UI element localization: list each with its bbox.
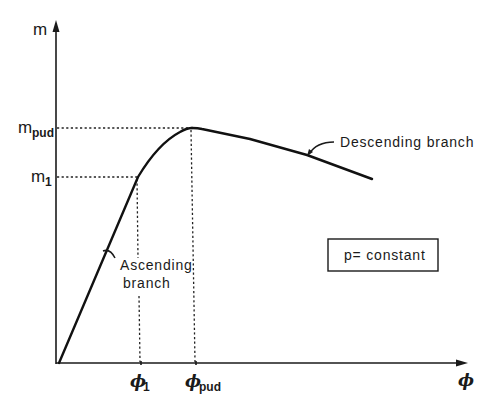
condition-box: p= constant [328, 239, 438, 271]
x-axis-label: ϕ [458, 370, 474, 390]
ascending-label-line2: branch [123, 275, 171, 291]
condition-box-text: p= constant [344, 247, 426, 263]
y-tick-mpud: m pud [18, 118, 54, 140]
y-tick-m1: m 1 [31, 167, 52, 189]
x-tick-phipud-label: ϕ pud [185, 371, 221, 394]
descending-label: Descending branch [340, 134, 474, 150]
x-tick-phi1-label: ϕ 1 [130, 371, 150, 394]
phipud-vertical-guide [191, 130, 195, 362]
y-tick-m1-main: m [31, 167, 45, 186]
y-axis-arrow-icon [53, 20, 60, 32]
guide-lines [57, 128, 195, 362]
moment-curvature-diagram: m ϕ m pud m 1 ϕ 1 ϕ pud Ascending branch… [0, 0, 489, 406]
y-axis-label: m [33, 20, 47, 39]
descending-callout-pointer [309, 142, 334, 154]
x-tick-phi1-sub: 1 [143, 380, 150, 394]
y-tick-m1-sub: 1 [45, 175, 52, 189]
ascending-label-line1: Ascending [120, 257, 193, 273]
x-tick-phipud-sub: pud [199, 380, 221, 394]
phi1-vertical-guide-upper [137, 179, 138, 258]
ascending-branch-curve [59, 128, 192, 363]
y-tick-mpud-main: m [18, 118, 32, 137]
axes [53, 20, 469, 367]
phi1-vertical-guide-lower [139, 296, 140, 362]
y-tick-mpud-sub: pud [32, 126, 54, 140]
x-axis-arrow-icon [456, 360, 468, 367]
